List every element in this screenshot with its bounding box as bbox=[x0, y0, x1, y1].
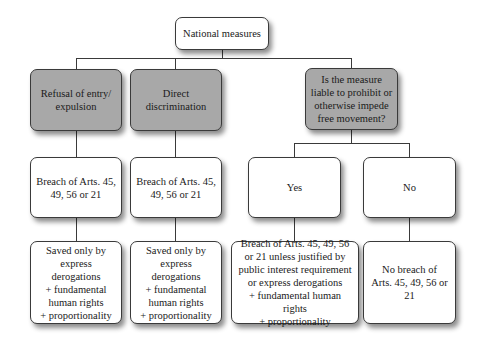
node-no-breach: No breach of Arts. 45, 49, 56 or 21 bbox=[363, 241, 456, 324]
connector-to-direct bbox=[175, 58, 176, 69]
connector-breach1-down bbox=[76, 218, 77, 241]
connector-refusal-to-breach bbox=[76, 131, 77, 157]
node-label: Is the measure liable to prohibit or oth… bbox=[311, 73, 392, 125]
connector-to-no bbox=[409, 143, 410, 157]
node-breach-2: Breach of Arts. 45, 49, 56 or 21 bbox=[130, 157, 222, 218]
connector-to-question bbox=[351, 58, 352, 68]
node-label: Saved only by express derogations + fund… bbox=[140, 244, 212, 322]
node-national-measures: National measures bbox=[175, 17, 269, 50]
node-label: Yes bbox=[287, 181, 302, 194]
connector-no-down bbox=[409, 218, 410, 241]
connector-to-refusal bbox=[76, 58, 77, 69]
connector-root-down bbox=[222, 50, 223, 58]
node-direct-discrimination: Direct discrimination bbox=[130, 69, 222, 131]
node-refusal-of-entry: Refusal of entry/ expulsion bbox=[30, 69, 122, 131]
node-yes: Yes bbox=[248, 157, 341, 218]
connector-level1-bar bbox=[76, 58, 352, 59]
node-label: Saved only by express derogations + fund… bbox=[40, 244, 112, 322]
node-label: No bbox=[403, 181, 416, 194]
connector-yes-no-bar bbox=[294, 143, 410, 144]
node-label: No breach of Arts. 45, 49, 56 or 21 bbox=[368, 263, 451, 302]
node-breach-unless-justified: Breach of Arts. 45, 49, 56 or 21 unless … bbox=[231, 241, 359, 324]
node-label: Refusal of entry/ expulsion bbox=[41, 87, 112, 113]
connector-breach2-down bbox=[175, 218, 176, 241]
connector-question-down bbox=[351, 130, 352, 143]
node-label: Breach of Arts. 45, 49, 56 or 21 bbox=[36, 175, 116, 201]
node-label: Breach of Arts. 45, 49, 56 or 21 bbox=[136, 175, 216, 201]
node-label: Direct discrimination bbox=[146, 87, 207, 113]
node-label: Breach of Arts. 45, 49, 56 or 21 unless … bbox=[236, 237, 354, 328]
connector-direct-to-breach bbox=[175, 131, 176, 157]
node-saved-only-1: Saved only by express derogations + fund… bbox=[30, 241, 122, 324]
node-breach-1: Breach of Arts. 45, 49, 56 or 21 bbox=[30, 157, 122, 218]
connector-to-yes bbox=[294, 143, 295, 157]
node-saved-only-2: Saved only by express derogations + fund… bbox=[130, 241, 222, 324]
node-no: No bbox=[363, 157, 456, 218]
node-impede-question: Is the measure liable to prohibit or oth… bbox=[305, 68, 398, 130]
node-label: National measures bbox=[183, 27, 261, 40]
